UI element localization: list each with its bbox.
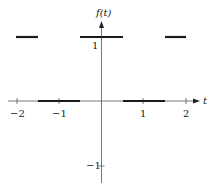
square-wave-chart: f(t) t −2 −1 1 2 1 −1 xyxy=(0,0,210,187)
x-tick-label: 2 xyxy=(183,108,189,119)
function-segments xyxy=(16,37,186,101)
y-tick-label: 1 xyxy=(92,40,98,51)
x-tick-label: 1 xyxy=(140,108,146,119)
y-axis-label: f(t) xyxy=(95,7,112,18)
y-axis-arrow-icon xyxy=(99,21,104,28)
x-axis-label: t xyxy=(203,95,208,106)
x-tick-label: −2 xyxy=(10,108,25,119)
y-tick-label: −1 xyxy=(86,160,101,171)
x-tick-label: −1 xyxy=(52,108,67,119)
x-axis-arrow-icon xyxy=(193,99,200,104)
